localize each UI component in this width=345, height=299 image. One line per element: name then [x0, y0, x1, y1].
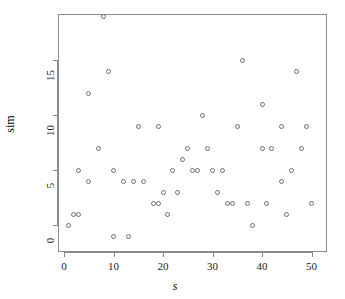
data-point — [260, 146, 265, 151]
y-axis-line — [57, 60, 58, 225]
y-axis-tick-label: 0 — [45, 225, 56, 255]
data-point — [250, 223, 255, 228]
data-point — [165, 212, 170, 217]
y-axis-tick-label: 5 — [45, 170, 56, 200]
data-point — [279, 179, 284, 184]
data-point — [185, 146, 190, 151]
data-point — [86, 179, 91, 184]
data-point — [111, 168, 116, 173]
data-point — [136, 124, 141, 129]
data-point — [205, 146, 210, 151]
scatter-plot: 01020304050051015 sim s — [0, 0, 345, 299]
data-point — [195, 168, 200, 173]
data-point — [121, 179, 126, 184]
data-point — [96, 146, 101, 151]
data-point — [260, 102, 265, 107]
data-point — [101, 14, 106, 19]
data-point — [269, 146, 274, 151]
x-axis-line — [64, 252, 312, 253]
data-point — [175, 190, 180, 195]
data-point — [299, 146, 304, 151]
data-point — [161, 190, 166, 195]
data-point — [131, 179, 136, 184]
data-point — [180, 157, 185, 162]
x-axis-tick — [312, 252, 313, 257]
data-point — [126, 234, 131, 239]
x-axis-tick-label: 20 — [148, 261, 178, 272]
data-point — [156, 201, 161, 206]
x-axis-tick-label: 10 — [99, 261, 129, 272]
data-point — [309, 201, 314, 206]
x-axis-tick-label: 50 — [297, 261, 327, 272]
x-axis-tick-label: 30 — [198, 261, 228, 272]
data-point — [156, 124, 161, 129]
data-point — [106, 69, 111, 74]
data-point — [304, 124, 309, 129]
data-point — [170, 168, 175, 173]
data-point — [111, 234, 116, 239]
x-axis-label: s — [155, 279, 195, 294]
data-point — [200, 113, 205, 118]
data-point — [151, 201, 156, 206]
data-points-layer: 01020304050051015 — [0, 0, 345, 299]
data-point — [289, 168, 294, 173]
data-point — [220, 168, 225, 173]
data-point — [284, 212, 289, 217]
data-point — [210, 168, 215, 173]
y-axis-tick-label: 10 — [45, 115, 56, 145]
y-axis-tick-label: 15 — [45, 60, 56, 90]
data-point — [86, 91, 91, 96]
data-point — [294, 69, 299, 74]
y-axis-label: sim — [4, 104, 16, 144]
data-point — [240, 58, 245, 63]
data-point — [141, 179, 146, 184]
data-point — [279, 124, 284, 129]
data-point — [245, 201, 250, 206]
data-point — [230, 201, 235, 206]
x-axis-tick-label: 40 — [247, 261, 277, 272]
data-point — [215, 190, 220, 195]
data-point — [66, 223, 71, 228]
data-point — [235, 124, 240, 129]
data-point — [264, 201, 269, 206]
data-point — [76, 212, 81, 217]
x-axis-tick-label: 0 — [49, 261, 79, 272]
data-point — [76, 168, 81, 173]
